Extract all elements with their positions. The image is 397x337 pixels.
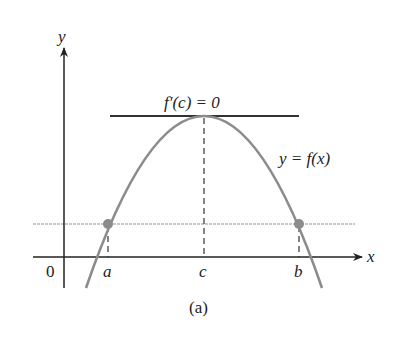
- rolles-theorem-diagram: y x 0 a c b f′(c) = 0 y = f(x) (a): [0, 0, 397, 337]
- caption: (a): [189, 298, 208, 317]
- x-axis-label: x: [366, 247, 375, 266]
- point-a: [103, 219, 113, 229]
- tangent-label: f′(c) = 0: [164, 93, 220, 112]
- point-b: [294, 219, 304, 229]
- curve-label: y = f(x): [277, 149, 330, 168]
- label-a: a: [103, 262, 112, 281]
- y-axis-label: y: [56, 27, 66, 46]
- label-b: b: [294, 262, 303, 281]
- label-c: c: [199, 262, 207, 281]
- origin-label: 0: [46, 262, 55, 281]
